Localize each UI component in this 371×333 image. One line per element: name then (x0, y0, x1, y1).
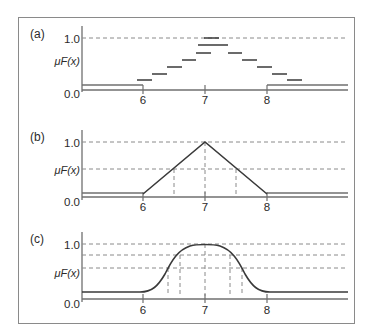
panel-c-plot (0, 220, 371, 333)
panel-b: (b) 1.0 μF(x) 0.0 6 7 8 (0, 112, 371, 220)
panel-a: (a) 1.0 μF(x) 0.0 6 7 8 (0, 0, 371, 112)
panel-c: (c) 1.0 μF(x) 0.0 6 7 8 (0, 220, 371, 333)
panel-b-plot (0, 112, 371, 220)
panel-a-steps (137, 38, 302, 80)
panel-a-plot (0, 0, 371, 112)
figure-membership-functions: (a) 1.0 μF(x) 0.0 6 7 8 (0, 0, 371, 333)
